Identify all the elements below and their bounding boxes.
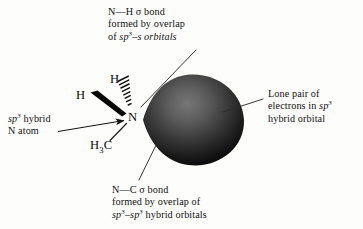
atom-label-hydrogen-up: H (110, 72, 119, 87)
n-h-hashed-wedge (118, 76, 131, 105)
methyl-c-text: C (104, 138, 113, 152)
n-h-line3-post: –s orbitals (132, 31, 176, 42)
sp3-lone-pair-lobe (143, 75, 244, 166)
n-c-sigma-bond-label: N—C σ bond formed by overlap of sp3–sp3 … (112, 184, 207, 221)
n-c-line3-sp2: sp (130, 209, 139, 220)
atom-nitrogen-text: N (128, 110, 137, 124)
sp3-n-atom-line1-post: hybrid (21, 113, 51, 124)
lone-pair-line2-pre: electrons in (268, 100, 319, 111)
atom-hydrogen-left-text: H (76, 88, 85, 102)
atom-label-methyl: H3C (90, 138, 112, 153)
lone-pair-line-3: hybrid orbital (268, 113, 332, 125)
lone-pair-line-1: Lone pair of (268, 88, 332, 100)
n-c-plain-bond (110, 124, 127, 141)
atom-label-nitrogen: N (128, 110, 137, 125)
n-c-line1-post: C σ bond (130, 184, 169, 195)
sp3-n-atom-sp: sp (8, 113, 17, 124)
n-h-sigma-bond-line-2: formed by overlap (108, 18, 185, 30)
sp3-n-atom-line-2: N atom (8, 125, 51, 137)
n-h-line1-post: H σ bond (126, 6, 165, 17)
lone-pair-line2-sp: sp (319, 100, 328, 111)
atom-hydrogen-up-text: H (110, 72, 119, 86)
orbital-diagram-figure: H H N H3C N—H σ bond formed by overlap o… (0, 0, 363, 229)
n-h-line3-pre: of (108, 31, 119, 42)
em-dash-glyph: — (115, 6, 125, 17)
leader-line-bottom (139, 139, 159, 180)
em-dash-glyph: — (119, 184, 129, 195)
n-c-line3-post: hybrid orbitals (143, 209, 207, 220)
atom-label-hydrogen-left: H (76, 88, 85, 103)
n-h-solid-wedge (91, 91, 127, 117)
n-h-sigma-bond-label: N—H σ bond formed by overlap of sp3–s or… (108, 6, 185, 43)
lone-pair-line2-sup: 3 (328, 99, 332, 107)
sp3-hybrid-n-atom-label: sp3 hybrid N atom (8, 113, 51, 138)
n-c-sigma-bond-line-3: sp3–sp3 hybrid orbitals (112, 209, 207, 221)
sp3-n-atom-line-1: sp3 hybrid (8, 113, 51, 125)
n-c-sigma-bond-line-1: N—C σ bond (112, 184, 207, 196)
n-c-line3-sp1: sp (112, 209, 121, 220)
sp3-n-atom-pointer-arrow (58, 121, 124, 132)
methyl-h-text: H (90, 138, 99, 152)
n-h-sigma-bond-line-1: N—H σ bond (108, 6, 185, 18)
lone-pair-line-2: electrons in sp3 (268, 100, 332, 112)
n-c-sigma-bond-line-2: formed by overlap of (112, 196, 207, 208)
n-h-sigma-bond-line-3: of sp3–s orbitals (108, 31, 185, 43)
n-h-line3-sp: sp (119, 31, 128, 42)
lone-pair-label: Lone pair of electrons in sp3 hybrid orb… (268, 88, 332, 125)
